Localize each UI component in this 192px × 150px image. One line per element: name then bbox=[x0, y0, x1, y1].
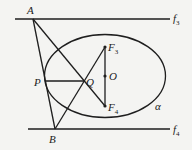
point-O bbox=[103, 74, 106, 77]
label-O: O bbox=[109, 70, 117, 82]
label-Q: Q bbox=[86, 76, 94, 88]
label-f3: f3 bbox=[173, 12, 180, 27]
label-f4: f4 bbox=[173, 123, 180, 138]
label-B: B bbox=[49, 133, 56, 145]
label-F4: F4 bbox=[107, 101, 119, 116]
geometry-figure: A B P Q O F3 F4 f3 f4 α bbox=[0, 0, 192, 150]
label-F3: F3 bbox=[107, 41, 119, 56]
point-F3 bbox=[103, 45, 106, 48]
segment-AF4 bbox=[33, 19, 105, 106]
label-alpha: α bbox=[155, 100, 161, 112]
label-A: A bbox=[26, 4, 34, 16]
label-P: P bbox=[33, 76, 41, 88]
segment-AB bbox=[33, 19, 55, 129]
point-F4 bbox=[103, 104, 106, 107]
